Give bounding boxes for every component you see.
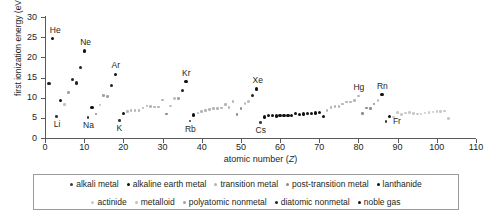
data-point xyxy=(173,97,176,100)
data-point xyxy=(169,105,172,108)
element-label-kr: Kr xyxy=(182,69,191,78)
data-point xyxy=(212,107,215,110)
data-point xyxy=(416,113,419,116)
data-point xyxy=(443,110,446,113)
data-point xyxy=(341,103,344,106)
data-point xyxy=(192,113,195,116)
data-point xyxy=(361,112,364,115)
legend-item[interactable]: lanthanide xyxy=(377,180,422,189)
data-point xyxy=(55,115,58,118)
y-tick xyxy=(41,118,45,119)
legend-item-label: noble gas xyxy=(364,198,401,207)
x-tick-label: 100 xyxy=(424,143,450,152)
legend-marker-icon xyxy=(214,183,217,186)
data-point xyxy=(251,94,254,97)
x-tick-label: 60 xyxy=(267,143,293,152)
data-point xyxy=(244,102,247,105)
legend-item-label: alkali metal xyxy=(76,180,119,189)
y-tick xyxy=(41,98,45,99)
legend-item[interactable]: transition metal xyxy=(214,180,278,189)
element-label-na: Na xyxy=(83,121,94,130)
ionization-energy-chart: first ionization energy (eV) atomic numb… xyxy=(0,0,491,220)
data-point xyxy=(106,95,109,98)
y-tick-label: 30 xyxy=(11,13,37,22)
data-point xyxy=(142,107,145,110)
data-point xyxy=(318,111,321,114)
data-point xyxy=(439,110,442,113)
data-point xyxy=(75,81,78,84)
y-tick-label: 0 xyxy=(11,134,37,143)
data-point xyxy=(184,80,187,83)
legend-marker-icon xyxy=(377,183,380,186)
data-point xyxy=(294,112,297,115)
data-point xyxy=(220,107,223,110)
data-point xyxy=(373,103,376,106)
data-point xyxy=(436,110,439,113)
data-point xyxy=(51,37,54,40)
x-tick-label: 40 xyxy=(189,143,215,152)
legend-marker-icon xyxy=(91,201,94,204)
legend-item[interactable]: polyatomic nonmetal xyxy=(183,198,267,207)
x-tick-label: 50 xyxy=(228,143,254,152)
data-point xyxy=(90,106,93,109)
data-point xyxy=(298,113,301,116)
legend-row: actinidemetalloidpolyatomic nonmetaldiat… xyxy=(34,193,458,211)
y-tick-label: 5 xyxy=(11,113,37,122)
data-point xyxy=(412,112,415,115)
element-label-hg: Hg xyxy=(353,83,364,92)
data-point xyxy=(357,95,360,98)
legend-item[interactable]: alkaline earth metal xyxy=(127,180,207,189)
data-point xyxy=(380,93,383,96)
data-point xyxy=(424,112,427,115)
legend-marker-icon xyxy=(286,183,289,186)
data-point xyxy=(110,84,113,87)
element-label-ar: Ar xyxy=(112,61,121,70)
y-tick-label: 10 xyxy=(11,93,37,102)
legend-item[interactable]: diatomic nonmetal xyxy=(275,198,350,207)
data-point xyxy=(396,111,399,114)
data-point xyxy=(247,100,250,103)
element-label-fr: Fr xyxy=(393,117,401,126)
element-label-rb: Rb xyxy=(185,125,196,134)
data-point xyxy=(447,117,450,120)
data-point xyxy=(165,113,168,116)
legend-item[interactable]: metalloid xyxy=(135,198,175,207)
data-point xyxy=(306,112,309,115)
y-tick xyxy=(41,37,45,38)
element-label-rn: Rn xyxy=(377,82,388,91)
data-point xyxy=(255,87,258,90)
data-point xyxy=(59,99,62,102)
legend-item[interactable]: alkali metal xyxy=(70,180,119,189)
element-label-ne: Ne xyxy=(80,38,91,47)
data-point xyxy=(236,113,239,116)
data-point xyxy=(275,114,278,117)
data-point xyxy=(161,99,164,102)
legend-item-label: transition metal xyxy=(220,180,278,189)
data-point xyxy=(157,106,160,109)
y-axis-line xyxy=(45,16,46,139)
data-point xyxy=(267,114,270,117)
data-point xyxy=(153,106,156,109)
data-point xyxy=(302,112,305,115)
data-point xyxy=(224,103,227,106)
x-axis-title: atomic number (Z) xyxy=(45,154,476,164)
legend-item-label: diatomic nonmetal xyxy=(281,198,350,207)
legend-item[interactable]: actinide xyxy=(91,198,126,207)
data-point xyxy=(408,111,411,114)
data-point xyxy=(365,107,368,110)
element-label-he: He xyxy=(50,26,61,35)
data-point xyxy=(322,115,325,118)
data-point xyxy=(271,114,274,117)
data-point xyxy=(130,109,133,112)
x-axis-title-close: ) xyxy=(294,154,297,164)
data-point xyxy=(197,112,200,115)
data-point xyxy=(353,99,356,102)
x-tick-label: 70 xyxy=(306,143,332,152)
legend-item[interactable]: noble gas xyxy=(358,198,401,207)
y-tick xyxy=(41,17,45,18)
legend-item[interactable]: post-transition metal xyxy=(286,180,369,189)
data-point xyxy=(177,97,180,100)
data-point xyxy=(134,109,137,112)
element-label-k: K xyxy=(116,124,122,133)
legend-marker-icon xyxy=(70,183,73,186)
